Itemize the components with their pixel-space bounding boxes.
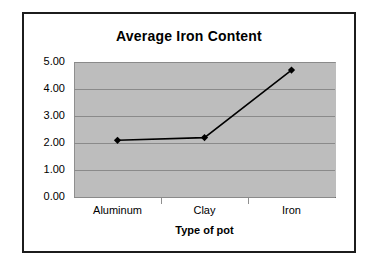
x-axis-tick-label: Iron bbox=[248, 204, 335, 216]
data-series-line bbox=[74, 62, 335, 197]
series-marker-group bbox=[114, 67, 295, 144]
y-axis-tick-label: 4.00 bbox=[19, 83, 65, 94]
y-axis-tick-label: 1.00 bbox=[19, 164, 65, 175]
y-axis-tick-label: 3.00 bbox=[19, 110, 65, 121]
x-axis-category-divider bbox=[248, 198, 249, 204]
x-axis-category-divider bbox=[161, 198, 162, 204]
gridline bbox=[74, 197, 335, 198]
y-axis-tick-label: 5.00 bbox=[19, 56, 65, 67]
chart-title: Average Iron Content bbox=[24, 28, 354, 44]
x-axis-title: Type of pot bbox=[74, 224, 335, 236]
series-polyline bbox=[118, 70, 292, 140]
x-axis-tick-label: Clay bbox=[161, 204, 248, 216]
y-axis-tick-label: 0.00 bbox=[19, 191, 65, 202]
x-axis-tick-label: Aluminum bbox=[74, 204, 161, 216]
chart-figure: Average Iron Content 0.001.002.003.004.0… bbox=[22, 12, 356, 253]
y-axis-tick-label: 2.00 bbox=[19, 137, 65, 148]
data-point-marker bbox=[114, 137, 121, 144]
